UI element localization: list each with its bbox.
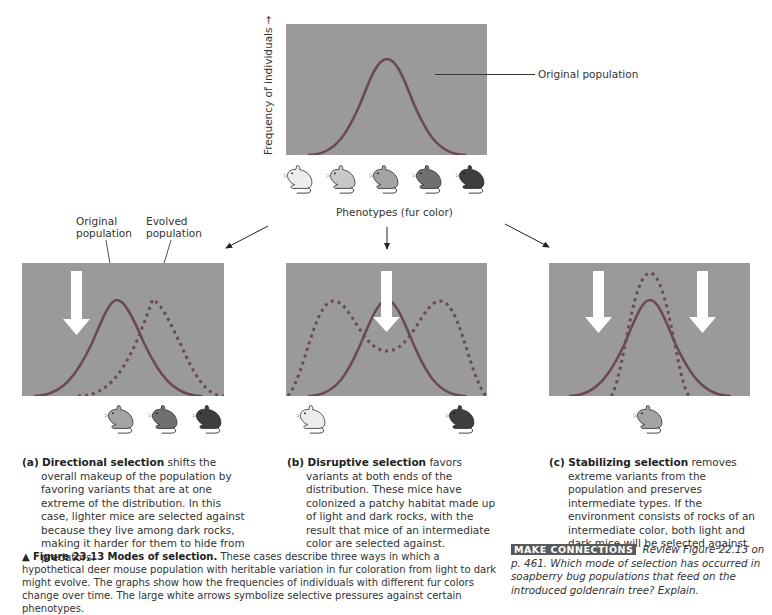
evolved-curve — [611, 273, 689, 396]
mouse-dark-icon — [148, 403, 181, 435]
evolved-curve — [78, 300, 224, 396]
mouse-darkest-icon — [445, 403, 478, 435]
make-connections: MAKE CONNECTIONS Review Figure 22.13 on … — [511, 543, 769, 597]
mouse-darkest-icon — [192, 403, 225, 435]
figure-number: Figure 23.13 — [33, 551, 104, 562]
mouse-medium-icon — [633, 403, 666, 435]
figure-title: Modes of selection. — [107, 551, 217, 562]
selection-arrow-right-icon — [689, 271, 716, 333]
selection-arrow-left-icon — [585, 271, 612, 333]
mouse-lightest-icon — [296, 403, 329, 435]
selection-arrow-icon — [63, 271, 90, 335]
panel-c-stabilizing — [549, 263, 750, 396]
original-curve — [34, 300, 202, 396]
panel-b-disruptive — [286, 263, 487, 396]
panel-a-directional — [22, 263, 224, 396]
caption-b: (b) Disruptive selection favors variants… — [287, 456, 497, 551]
caption-c: (c) Stabilizing selection removes extrem… — [549, 456, 759, 551]
panel-b-mice — [296, 403, 486, 437]
figure-caption: ▲ Figure 23.13 Modes of selection. These… — [22, 550, 502, 615]
triangle-icon: ▲ — [22, 551, 30, 562]
selection-arrow-icon — [373, 271, 400, 332]
arrow-to-c — [505, 224, 549, 247]
make-connections-badge: MAKE CONNECTIONS — [511, 544, 636, 555]
caption-a: (a) Directional selection shifts the ove… — [22, 456, 247, 564]
mouse-medium-icon — [104, 403, 137, 435]
panel-a-mice — [104, 403, 225, 435]
panel-c-mice — [633, 403, 666, 435]
